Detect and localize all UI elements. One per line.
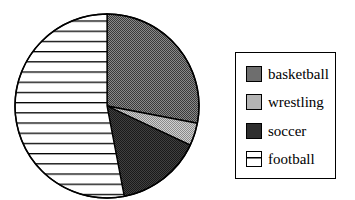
swatch-soccer-icon bbox=[246, 123, 262, 139]
legend-item-wrestling: wrestling bbox=[246, 93, 324, 111]
slice-basketball bbox=[107, 14, 199, 123]
swatch-basketball-icon bbox=[246, 66, 262, 82]
legend-label: football bbox=[268, 150, 315, 168]
legend-item-basketball: basketball bbox=[246, 65, 329, 83]
swatch-wrestling-icon bbox=[246, 94, 262, 110]
legend-label: wrestling bbox=[268, 93, 324, 111]
swatch-football-icon bbox=[246, 151, 262, 167]
legend-label: basketball bbox=[268, 65, 329, 83]
legend-item-football: football bbox=[246, 150, 315, 168]
legend: basketball wrestling soccer football bbox=[235, 52, 336, 179]
legend-label: soccer bbox=[268, 122, 306, 140]
legend-item-soccer: soccer bbox=[246, 122, 306, 140]
pie-slices bbox=[15, 14, 199, 198]
pie-chart bbox=[0, 0, 230, 200]
